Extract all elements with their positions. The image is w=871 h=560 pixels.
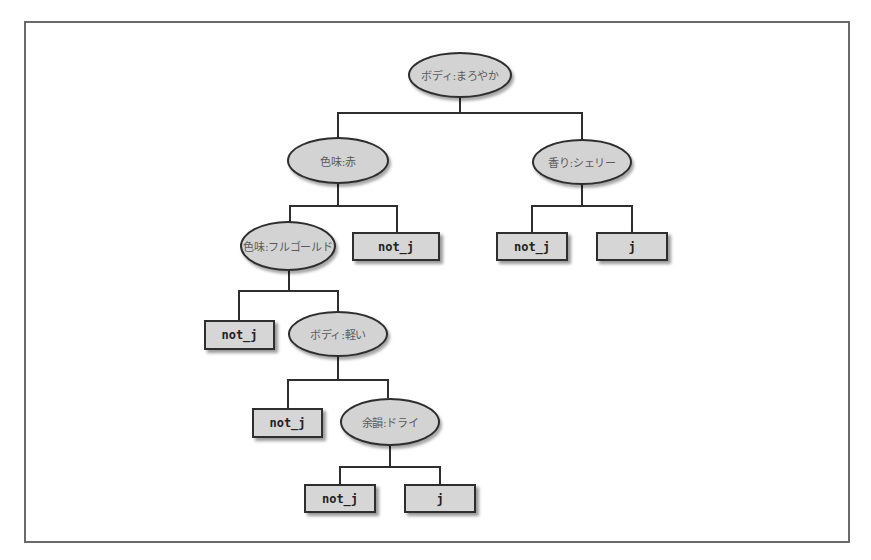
leaf-dry-j: j [404,484,476,513]
leaf-fullgold-not-j: not_j [204,320,275,350]
node-aroma-sherry: 香り:シェリー [532,139,632,185]
edge-aroma-sherry-split [532,206,632,232]
node-color-fullgold: 色味:フルゴールド [240,221,336,271]
node-label: ボディ:軽い [310,326,366,342]
leaf-label: not_j [221,328,257,342]
node-label: 色味:赤 [320,153,356,169]
node-body-light: ボディ:軽い [288,311,388,357]
node-color-red: 色味:赤 [287,137,389,184]
node-label: ボディ:まろやか [421,67,498,83]
leaf-dry-not-j: not_j [304,484,376,513]
node-root-body-mellow: ボディ:まろやか [408,52,512,98]
leaf-light-not-j: not_j [252,408,323,438]
leaf-sherry-j: j [596,232,668,261]
node-finish-dry: 余韻:ドライ [340,398,440,446]
leaf-label: not_j [322,492,358,506]
edge-finish-dry-split [340,467,440,484]
leaf-label: j [436,492,443,506]
node-label: 色味:フルゴールド [243,238,332,254]
leaf-label: not_j [378,240,414,254]
leaf-label: not_j [269,416,305,430]
leaf-red-not-j: not_j [352,232,440,261]
leaf-sherry-not-j: not_j [496,232,568,261]
edge-root-split [338,113,582,140]
leaf-label: j [628,240,635,254]
node-label: 香り:シェリー [548,154,616,170]
leaf-label: not_j [514,240,550,254]
node-label: 余韻:ドライ [362,414,419,430]
